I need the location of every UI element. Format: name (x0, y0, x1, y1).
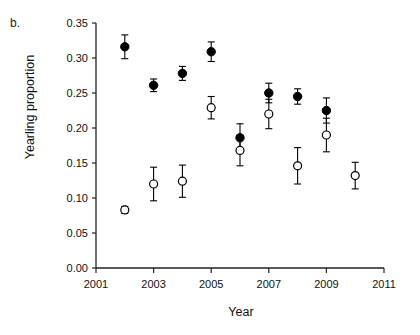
y-tick-label: 0.00 (67, 262, 88, 274)
marker-filled-circle (178, 69, 186, 77)
data-point (121, 206, 129, 214)
x-tick-label: 2011 (372, 278, 396, 290)
marker-open-circle (207, 104, 215, 112)
marker-filled-circle (265, 89, 273, 97)
marker-open-circle (150, 180, 158, 188)
data-point (207, 42, 215, 62)
x-tick-label: 2009 (314, 278, 338, 290)
data-point (294, 148, 302, 184)
data-point (265, 99, 273, 128)
marker-open-circle (236, 146, 244, 154)
x-tick-label: 2007 (257, 278, 281, 290)
y-tick-label: 0.35 (67, 17, 88, 29)
data-point (207, 97, 215, 119)
y-tick-label: 0.25 (67, 87, 88, 99)
data-point (293, 89, 301, 104)
y-tick-label: 0.20 (67, 122, 88, 134)
y-tick-label: 0.15 (67, 157, 88, 169)
y-tick-label: 0.30 (67, 52, 88, 64)
scatter-plot: 0.000.050.100.150.200.250.300.3520012003… (0, 0, 420, 335)
data-point (149, 79, 157, 92)
data-point (178, 165, 186, 197)
marker-filled-circle (293, 92, 301, 100)
marker-filled-circle (207, 48, 215, 56)
marker-open-circle (322, 131, 330, 139)
marker-filled-circle (322, 106, 330, 114)
series-closed-circles (121, 35, 331, 152)
data-point (121, 35, 129, 59)
data-point (178, 66, 186, 80)
x-tick-label: 2003 (141, 278, 165, 290)
marker-open-circle (178, 177, 186, 185)
x-tick-label: 2001 (84, 278, 108, 290)
x-tick-label: 2005 (199, 278, 223, 290)
figure-panel-b: b. Yearling proportion Year 0.000.050.10… (0, 0, 420, 335)
data-point (351, 162, 359, 189)
marker-open-circle (294, 162, 302, 170)
marker-open-circle (351, 172, 359, 180)
marker-filled-circle (121, 43, 129, 51)
y-tick-label: 0.05 (67, 227, 88, 239)
marker-open-circle (121, 206, 129, 214)
y-tick-label: 0.10 (67, 192, 88, 204)
marker-open-circle (265, 110, 273, 118)
marker-filled-circle (149, 81, 157, 89)
data-point (150, 167, 158, 201)
